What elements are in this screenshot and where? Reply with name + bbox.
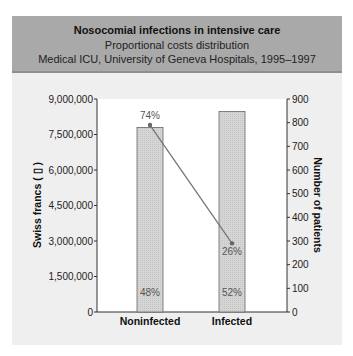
bar-infected bbox=[219, 112, 245, 312]
right-axis-tick-label: 200 bbox=[292, 259, 309, 270]
right-axis-tick-label: 400 bbox=[292, 212, 309, 223]
right-axis-tick-label: 600 bbox=[292, 165, 309, 176]
right-axis-title: Number of patients bbox=[312, 157, 324, 253]
left-axis-tick-label: 9,000,000 bbox=[49, 94, 94, 105]
left-axis-tick-label: 4,500,000 bbox=[49, 200, 94, 211]
left-axis-title: Swiss francs ( ▯ ) bbox=[31, 162, 43, 248]
left-axis-tick-label: 3,000,000 bbox=[49, 236, 94, 247]
patients-data-point bbox=[230, 241, 234, 245]
right-axis-tick-label: 100 bbox=[292, 283, 309, 294]
left-axis-tick-label: 1,500,000 bbox=[49, 271, 94, 282]
left-axis-tick-label: 6,000,000 bbox=[49, 165, 94, 176]
left-axis-tick-label: 0 bbox=[87, 307, 93, 318]
right-axis-tick-label: 800 bbox=[292, 117, 309, 128]
chart-plot: 01,500,0003,000,0004,500,0006,000,0007,5… bbox=[0, 0, 353, 356]
category-label: Noninfected bbox=[120, 315, 181, 327]
plot-area bbox=[97, 99, 287, 312]
right-axis-tick-label: 700 bbox=[292, 141, 309, 152]
right-axis-tick-label: 300 bbox=[292, 236, 309, 247]
patients-percent-label: 74% bbox=[140, 110, 160, 121]
category-label: Infected bbox=[212, 315, 252, 327]
bar-noninfected bbox=[137, 127, 163, 312]
patients-percent-label: 26% bbox=[222, 246, 242, 257]
bar-percent-label: 48% bbox=[140, 287, 160, 298]
left-axis-tick-label: 7,500,000 bbox=[49, 129, 94, 140]
right-axis-tick-label: 500 bbox=[292, 188, 309, 199]
patients-data-point bbox=[148, 123, 152, 127]
right-axis-tick-label: 900 bbox=[292, 94, 309, 105]
bar-percent-label: 52% bbox=[222, 287, 242, 298]
right-axis-tick-label: 0 bbox=[292, 307, 298, 318]
